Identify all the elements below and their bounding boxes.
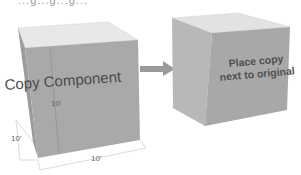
right-cube-side-face xyxy=(172,18,212,126)
height-dimension-label: 10' xyxy=(51,99,61,108)
depth-dimension-label: 10' xyxy=(11,134,21,143)
top-caption-clipped: ...g...g...g... xyxy=(18,0,88,6)
copy-component-diagram: ...g...g...g... Copy Component 10' 10' 1… xyxy=(0,0,301,175)
arrow-icon xyxy=(140,61,175,76)
width-dimension-label: 10' xyxy=(91,154,101,163)
left-cube-front-face xyxy=(25,40,140,158)
